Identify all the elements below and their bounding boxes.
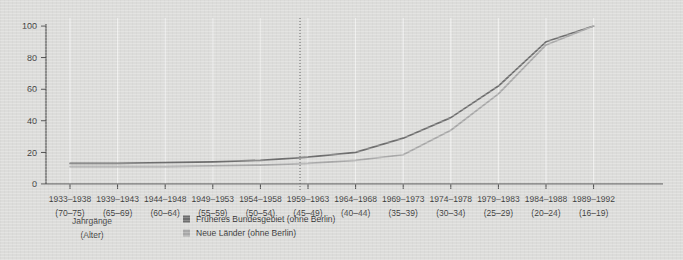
x-tick-label-cohort: 1933–1938 xyxy=(49,194,92,204)
series-lines xyxy=(70,26,594,167)
legend-label: Früheres Bundesgebiet (ohne Berlin) xyxy=(196,214,336,224)
y-tick-label: 40 xyxy=(27,116,37,126)
x-tick-label-cohort: 1989–1992 xyxy=(572,194,615,204)
x-tick-label-age: (40–44) xyxy=(341,208,370,218)
y-axis-ticks xyxy=(41,26,46,184)
x-tick-label-age: (20–24) xyxy=(531,208,560,218)
x-tick-label-age: (35–39) xyxy=(389,208,418,218)
x-tick-label-cohort: 1979–1983 xyxy=(477,194,520,204)
y-tick-label: 0 xyxy=(32,179,37,189)
gridlines xyxy=(70,18,594,184)
series-line-east xyxy=(70,26,594,167)
y-axis-labels: 020406080100 xyxy=(22,21,37,189)
x-tick-label-age: (30–34) xyxy=(436,208,465,218)
legend-swatch xyxy=(183,230,190,237)
axis-caption-line2: (Alter) xyxy=(80,230,103,240)
series-line-west xyxy=(70,26,594,163)
legend-label: Neue Länder (ohne Berlin) xyxy=(196,228,296,238)
x-tick-label-age: (60–64) xyxy=(151,208,180,218)
x-tick-label-age: (16–19) xyxy=(579,208,608,218)
x-tick-label-cohort: 1944–1948 xyxy=(144,194,187,204)
x-axis-ticks xyxy=(70,184,594,189)
legend: Früheres Bundesgebiet (ohne Berlin)Neue … xyxy=(183,214,336,238)
x-tick-label-cohort: 1964–1968 xyxy=(334,194,377,204)
x-tick-label-cohort: 1984–1988 xyxy=(525,194,568,204)
chart-container: 020406080100 1933–1938(70–75)1939–1943(6… xyxy=(0,0,683,260)
x-tick-label-cohort: 1939–1943 xyxy=(96,194,139,204)
x-tick-label-cohort: 1969–1973 xyxy=(382,194,425,204)
x-tick-label-cohort: 1949–1953 xyxy=(192,194,235,204)
y-tick-label: 80 xyxy=(27,53,37,63)
y-tick-label: 100 xyxy=(22,21,37,31)
y-tick-label: 60 xyxy=(27,84,37,94)
x-tick-label-cohort: 1974–1978 xyxy=(430,194,473,204)
legend-swatch xyxy=(183,216,190,223)
x-tick-label-cohort: 1959–1963 xyxy=(287,194,330,204)
x-tick-label-cohort: 1954–1958 xyxy=(239,194,282,204)
x-tick-label-age: (25–29) xyxy=(484,208,513,218)
y-tick-label: 20 xyxy=(27,148,37,158)
axis-caption-line1: Jahrgänge xyxy=(72,216,112,226)
line-chart: 020406080100 1933–1938(70–75)1939–1943(6… xyxy=(0,0,683,260)
